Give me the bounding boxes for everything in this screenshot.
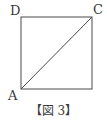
vertex-label-d: D bbox=[10, 4, 20, 17]
vertex-label-a: A bbox=[8, 89, 17, 102]
vertex-label-c: C bbox=[93, 3, 103, 16]
diagonal-ac bbox=[21, 17, 92, 89]
figure-caption: 【図 3】 bbox=[0, 104, 107, 118]
